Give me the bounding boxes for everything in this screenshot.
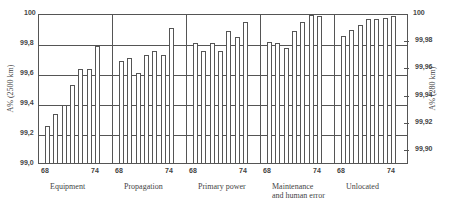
y-tick-label-right: 100 xyxy=(413,9,425,16)
y-tick-label: 99,8 xyxy=(20,39,34,46)
x-tick-label: 68 xyxy=(337,167,345,174)
bar xyxy=(267,42,272,164)
y-tick-mark-right xyxy=(404,96,409,97)
bar xyxy=(53,114,58,164)
bar xyxy=(119,61,124,163)
y-tick-label-right: 99,90 xyxy=(415,145,433,152)
x-tick-label: 74 xyxy=(387,167,395,174)
x-tick-label: 68 xyxy=(189,167,197,174)
bar xyxy=(292,31,297,163)
bar xyxy=(383,18,388,164)
x-tick-label: 68 xyxy=(41,167,49,174)
bar xyxy=(309,15,314,164)
bar xyxy=(95,46,100,163)
y-tick-label: 99,0 xyxy=(20,159,34,166)
y-axis-left-title: A% (2500 km) xyxy=(6,65,15,113)
y-tick-mark-right xyxy=(404,41,409,42)
bar xyxy=(201,51,206,164)
group-divider xyxy=(260,15,261,163)
group-label: Unlocated xyxy=(346,182,379,191)
bar xyxy=(275,43,280,163)
bar xyxy=(87,69,92,164)
bar xyxy=(70,85,75,163)
x-tick-label: 74 xyxy=(165,167,173,174)
bar xyxy=(349,30,354,164)
bar xyxy=(366,19,371,163)
y-tick-mark-right xyxy=(404,123,409,124)
bar xyxy=(62,105,67,164)
bar xyxy=(341,36,346,164)
y-tick-label-right: 99,92 xyxy=(415,118,433,125)
x-tick-label: 74 xyxy=(91,167,99,174)
bar xyxy=(374,19,379,163)
bar xyxy=(152,51,157,164)
bar xyxy=(78,69,83,164)
group-label: Propagation xyxy=(124,182,163,191)
y-tick-mark-right xyxy=(404,150,409,151)
y-axis-right-title: A% (280 km) xyxy=(428,67,437,111)
bar xyxy=(243,22,248,163)
y-tick-label: 100 xyxy=(24,9,36,16)
group-divider xyxy=(186,15,187,163)
y-tick-label: 99,6 xyxy=(20,69,34,76)
bar xyxy=(144,55,149,163)
bar xyxy=(317,16,322,163)
x-tick-label: 68 xyxy=(263,167,271,174)
group-label: Equipment xyxy=(50,182,85,191)
bar xyxy=(210,43,215,163)
bar xyxy=(45,126,50,164)
bar xyxy=(136,73,141,163)
group-divider xyxy=(334,15,335,163)
y-tick-mark-right xyxy=(404,68,409,69)
bar xyxy=(391,16,396,163)
bar xyxy=(218,51,223,164)
bar xyxy=(300,22,305,163)
group-label: Primary power xyxy=(198,182,246,191)
plot-area xyxy=(38,14,408,164)
bar xyxy=(161,55,166,163)
group-label: Maintenanceand human error xyxy=(272,182,325,200)
y-tick-label: 99,4 xyxy=(20,99,34,106)
x-tick-label: 74 xyxy=(239,167,247,174)
y-tick-label-right: 99,98 xyxy=(415,36,433,43)
bar xyxy=(226,31,231,163)
group-divider xyxy=(112,15,113,163)
bar xyxy=(169,28,174,163)
y-tick-label: 99,2 xyxy=(20,129,34,136)
bar xyxy=(193,43,198,163)
bar xyxy=(235,37,240,163)
x-tick-label: 74 xyxy=(313,167,321,174)
bar xyxy=(358,25,363,163)
x-tick-label: 68 xyxy=(115,167,123,174)
bar xyxy=(284,48,289,164)
bar xyxy=(127,58,132,163)
